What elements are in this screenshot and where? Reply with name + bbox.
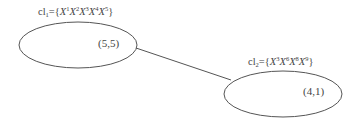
node-cl2-coord: (4,1): [303, 85, 324, 98]
node-cl2-label: cl2={X3X6X8X9}: [248, 55, 314, 68]
node-cl1-coord: (5,5): [98, 37, 119, 50]
node-cl1-label: cl1={X1X2X3X4X5}: [38, 5, 113, 18]
diagram-canvas: cl1={X1X2X3X4X5} (5,5) cl2={X3X6X8X9} (4…: [0, 0, 356, 120]
node-cl1-ellipse: [19, 22, 137, 68]
node-cl2: cl2={X3X6X8X9} (4,1): [224, 55, 342, 117]
node-cl2-ellipse: [224, 71, 342, 117]
node-cl1: cl1={X1X2X3X4X5} (5,5): [19, 5, 137, 68]
edge-cl1-cl2: [136, 48, 231, 80]
